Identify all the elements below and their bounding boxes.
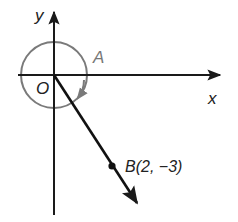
origin-label: O — [36, 79, 49, 98]
coordinate-diagram: y x O A B(2, −3) — [0, 0, 238, 222]
terminal-ray — [54, 75, 137, 203]
angle-label: A — [92, 48, 104, 67]
point-b-label: B(2, −3) — [125, 158, 182, 175]
y-axis-label: y — [34, 6, 45, 25]
x-axis-label: x — [207, 89, 217, 108]
point-b-dot — [108, 162, 115, 169]
